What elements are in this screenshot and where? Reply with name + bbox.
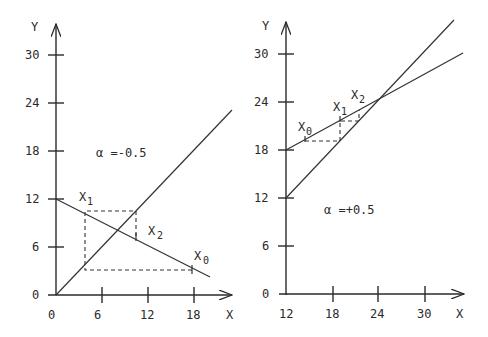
x-tick-label: 12 bbox=[140, 308, 154, 322]
y-tick-label: 30 bbox=[254, 47, 268, 61]
y-tick-label: 30 bbox=[25, 48, 39, 62]
diagram-canvas: Y 30 24 18 12 6 0 0 6 12 18 X α =-0.5 X … bbox=[0, 0, 488, 337]
right-y-axis-label: Y bbox=[262, 19, 270, 33]
right-45-degree-line bbox=[286, 20, 454, 198]
left-point-x0: X 0 bbox=[194, 249, 209, 266]
y-tick-label: 18 bbox=[25, 144, 39, 158]
x-tick-label: 0 bbox=[48, 308, 55, 322]
y-tick-label: 12 bbox=[254, 191, 268, 205]
right-alpha-label: α =+0.5 bbox=[324, 203, 375, 217]
x-tick-label: 18 bbox=[186, 308, 200, 322]
x-tick-label: 24 bbox=[370, 307, 384, 321]
svg-text:1: 1 bbox=[341, 106, 347, 117]
svg-text:0: 0 bbox=[306, 126, 312, 137]
x-tick-label: 12 bbox=[279, 307, 293, 321]
y-tick-label: 12 bbox=[25, 192, 39, 206]
left-point-x2: X 2 bbox=[148, 224, 163, 241]
right-point-x0: X 0 bbox=[298, 120, 312, 137]
left-x-axis-label: X bbox=[226, 308, 234, 322]
svg-text:X: X bbox=[148, 224, 156, 238]
y-tick-label: 6 bbox=[32, 240, 39, 254]
left-y-axis-label: Y bbox=[31, 20, 39, 34]
y-tick-label: 0 bbox=[262, 287, 269, 301]
left-point-x1: X 1 bbox=[79, 190, 93, 207]
svg-text:2: 2 bbox=[359, 94, 365, 105]
svg-text:X: X bbox=[79, 190, 87, 204]
svg-text:X: X bbox=[194, 249, 202, 263]
svg-text:2: 2 bbox=[157, 230, 163, 241]
svg-text:0: 0 bbox=[203, 255, 209, 266]
y-tick-label: 24 bbox=[25, 96, 39, 110]
svg-text:X: X bbox=[333, 100, 341, 114]
y-tick-label: 0 bbox=[32, 288, 39, 302]
svg-text:1: 1 bbox=[87, 196, 93, 207]
x-tick-label: 6 bbox=[94, 308, 101, 322]
x-tick-label: 30 bbox=[417, 307, 431, 321]
x-tick-label: 18 bbox=[325, 307, 339, 321]
right-chart: Y 30 24 18 12 6 0 12 18 24 30 X α =+0.5 … bbox=[254, 19, 464, 321]
y-tick-label: 24 bbox=[254, 95, 268, 109]
left-alpha-label: α =-0.5 bbox=[96, 146, 147, 160]
right-point-x1: X 1 bbox=[333, 100, 347, 117]
right-reaction-line bbox=[286, 53, 463, 150]
left-chart: Y 30 24 18 12 6 0 0 6 12 18 X α =-0.5 X … bbox=[25, 20, 234, 322]
y-tick-label: 18 bbox=[254, 143, 268, 157]
svg-text:X: X bbox=[298, 120, 306, 134]
svg-text:X: X bbox=[351, 88, 359, 102]
right-x-axis-label: X bbox=[456, 307, 464, 321]
right-point-x2: X 2 bbox=[351, 88, 365, 105]
y-tick-label: 6 bbox=[262, 239, 269, 253]
